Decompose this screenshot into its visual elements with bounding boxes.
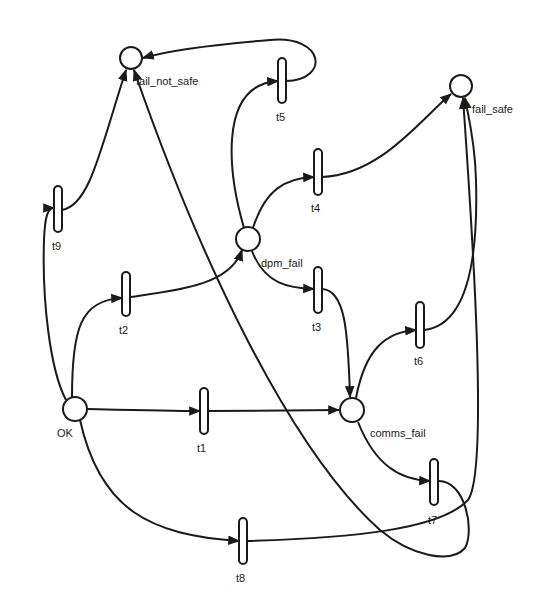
arc-t8-fail-safe xyxy=(247,98,478,541)
transition-t7[interactable]: t7 xyxy=(428,459,438,526)
transition-bar xyxy=(416,302,424,348)
transition-bar xyxy=(200,388,208,434)
place-label: comms_fail xyxy=(370,427,426,439)
transition-bar xyxy=(278,58,286,103)
petri-net-diagram: fail_not_safe fail_safe dpm_fail OK comm… xyxy=(0,0,545,607)
arc-ok-t2 xyxy=(72,298,122,397)
transition-bar xyxy=(314,267,322,313)
transition-label: t1 xyxy=(197,442,206,454)
place-fail-safe[interactable]: fail_safe xyxy=(450,75,513,115)
arc-t3-comms-fail xyxy=(322,289,350,397)
transition-t9[interactable]: t9 xyxy=(52,186,62,252)
place-label: OK xyxy=(57,427,74,439)
place-circle xyxy=(120,47,142,69)
transition-bar xyxy=(54,186,62,232)
place-label: dpm_fail xyxy=(261,257,303,269)
transition-label: t4 xyxy=(311,202,320,214)
transition-bar xyxy=(430,459,438,505)
place-label: fail_safe xyxy=(472,103,513,115)
transition-t6[interactable]: t6 xyxy=(414,302,424,367)
transition-t5[interactable]: t5 xyxy=(276,58,286,123)
transition-t1[interactable]: t1 xyxy=(197,388,208,454)
arc-ok-t9 xyxy=(44,208,66,400)
transition-t8[interactable]: t8 xyxy=(236,518,247,584)
arc-t2-dpm-fail xyxy=(130,250,242,297)
arc-t4-fail-safe xyxy=(322,94,451,177)
transition-label: t9 xyxy=(52,240,61,252)
transition-label: t5 xyxy=(276,111,285,123)
place-dpm-fail[interactable]: dpm_fail xyxy=(236,227,303,269)
arcs xyxy=(44,40,478,557)
transition-t2[interactable]: t2 xyxy=(119,272,130,336)
transition-bar xyxy=(239,518,247,564)
transition-label: t8 xyxy=(236,572,245,584)
transition-t4[interactable]: t4 xyxy=(311,149,322,214)
arc-dpm-fail-t5 xyxy=(232,81,278,228)
place-circle xyxy=(340,398,364,422)
place-circle xyxy=(450,75,472,97)
transitions: t1 t2 t3 t4 t5 t6 t7 t8 xyxy=(52,58,438,584)
transition-label: t3 xyxy=(312,321,321,333)
place-label: fail_not_safe xyxy=(136,75,198,87)
arc-t1-comms-fail xyxy=(208,410,339,411)
arc-t6-fail-safe xyxy=(424,98,476,330)
places: fail_not_safe fail_safe dpm_fail OK comm… xyxy=(57,47,513,439)
transition-label: t7 xyxy=(428,514,437,526)
transition-t3[interactable]: t3 xyxy=(312,267,322,333)
arc-ok-t1 xyxy=(87,409,200,411)
arc-dpm-fail-t4 xyxy=(253,177,314,228)
transition-label: t2 xyxy=(119,324,128,336)
arc-t9-fail-not-safe xyxy=(62,70,126,210)
transition-bar xyxy=(314,149,322,195)
arc-comms-fail-t6 xyxy=(356,330,416,398)
place-circle xyxy=(63,397,87,421)
transition-label: t6 xyxy=(414,355,423,367)
place-circle xyxy=(236,227,260,251)
arc-ok-t8 xyxy=(80,420,239,541)
place-comms-fail[interactable]: comms_fail xyxy=(340,398,426,439)
transition-bar xyxy=(122,272,130,316)
